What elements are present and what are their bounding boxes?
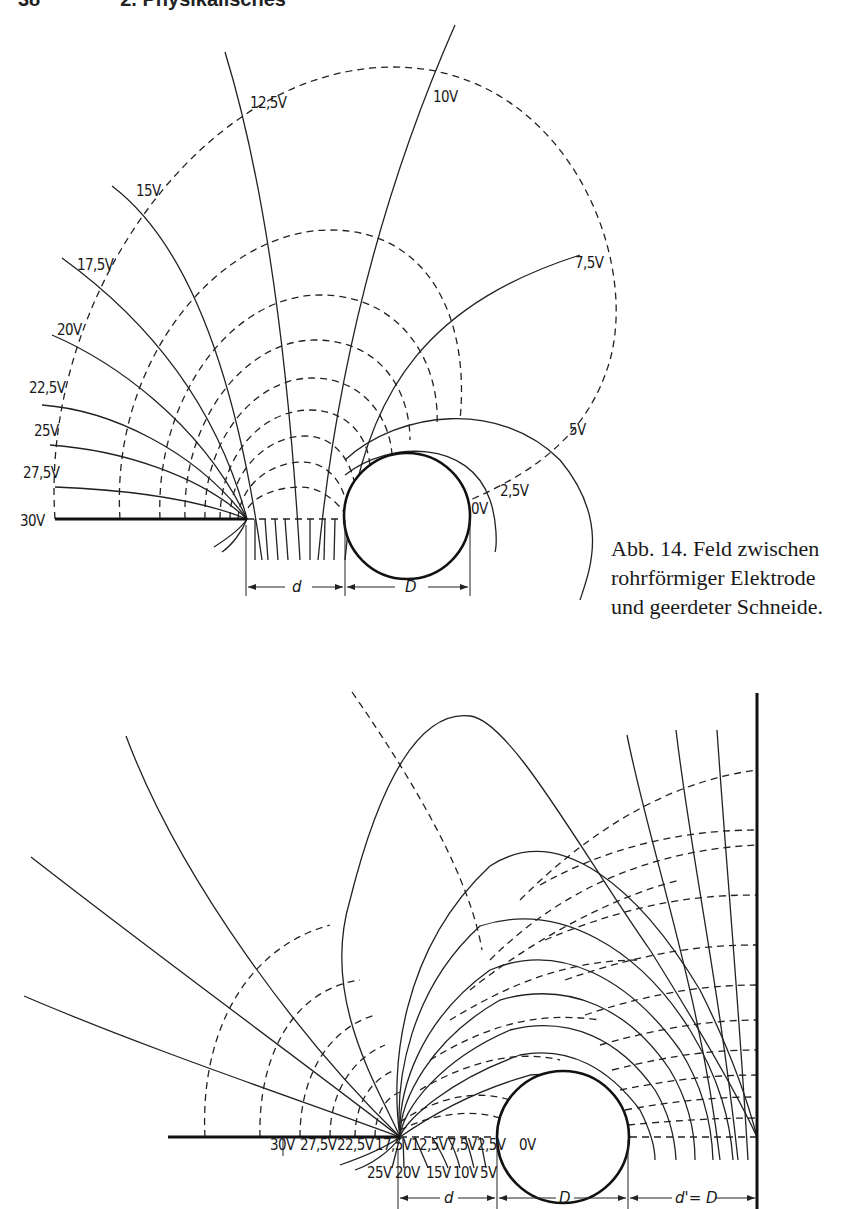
figure-caption: Abb. 14. Feld zwischen rohrförmiger Elek… xyxy=(611,534,856,621)
voltage-labels-top: 30V 27,5V 25V 22,5V 20V 17,5V 15V 12,5V … xyxy=(20,88,605,530)
field-lines-bottom xyxy=(205,692,757,1137)
voltage-labels-bottom-row2: 25V 20V 15V 10V 5V xyxy=(367,1164,498,1182)
label-7-5v: 7,5V xyxy=(575,254,605,272)
label-5v-bottom: 5V xyxy=(480,1164,498,1182)
label-17-5v: 17,5V xyxy=(77,256,115,274)
label-17-5v-bottom: 17,5V xyxy=(375,1136,413,1154)
label-27-5v-bottom: 27,5V xyxy=(300,1136,338,1154)
label-25v-bottom: 25V xyxy=(367,1164,393,1182)
label-7-5v-bottom: 7,5V xyxy=(448,1136,478,1154)
label-2-5v: 2,5V xyxy=(500,482,530,500)
label-22-5v-bottom: 22,5V xyxy=(337,1136,375,1154)
dimension-label-D-bottom: D xyxy=(559,1189,571,1207)
label-30v: 30V xyxy=(20,512,46,530)
label-12-5v: 12,5V xyxy=(250,94,288,112)
caption-line-1: Abb. 14. Feld zwischen xyxy=(611,534,856,563)
label-15v: 15V xyxy=(136,182,162,200)
figure-bottom: d D d'= D 30V 27,5V 22,5V 17,5V 12,5V 7,… xyxy=(24,692,757,1209)
dimension-label-D-top: D xyxy=(405,578,417,596)
label-30v-bottom: 30V xyxy=(270,1136,296,1154)
label-27-5v: 27,5V xyxy=(23,464,61,482)
dimension-label-d-top: d xyxy=(292,578,302,596)
label-15v-bottom: 15V xyxy=(426,1164,452,1182)
caption-line-2: rohrförmiger Elektrode xyxy=(611,563,856,592)
label-5v: 5V xyxy=(569,421,587,439)
tube-electrode-bottom xyxy=(497,1071,629,1203)
equipotential-lines-bottom xyxy=(24,716,757,1170)
label-0v-bottom: 0V xyxy=(519,1136,537,1154)
tube-electrode-top xyxy=(344,453,470,579)
label-12-5v-bottom: 12,5V xyxy=(411,1136,449,1154)
dimension-label-d-bottom: d xyxy=(444,1189,454,1207)
label-10v-bottom: 10V xyxy=(453,1164,479,1182)
caption-line-3: und geerdeter Schneide. xyxy=(611,592,856,621)
equipotential-lines-top xyxy=(42,25,593,600)
label-22-5v: 22,5V xyxy=(29,379,67,397)
label-20v-bottom: 20V xyxy=(395,1164,421,1182)
dimension-label-d-prime: d'= D xyxy=(675,1189,718,1207)
label-20v: 20V xyxy=(57,321,83,339)
label-25v: 25V xyxy=(34,422,60,440)
label-0v: 0V xyxy=(471,500,489,518)
voltage-labels-bottom-row1: 30V 27,5V 22,5V 17,5V 12,5V 7,5V 2,5V 0V xyxy=(270,1136,537,1154)
figure-top: d D 30V 27,5V 25V 22,5V 20V 17,5V 15V 12… xyxy=(20,25,616,600)
label-2-5v-bottom: 2,5V xyxy=(477,1136,507,1154)
label-10v: 10V xyxy=(433,88,459,106)
field-lines-top xyxy=(54,67,616,519)
